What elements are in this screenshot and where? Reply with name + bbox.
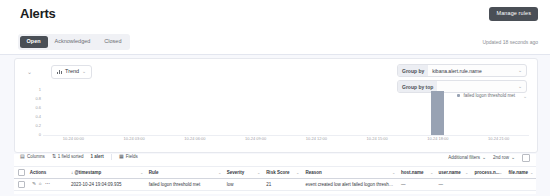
column-header-actions[interactable]: Actions <box>27 167 68 178</box>
column-header-process-name[interactable]: process.n...⌄ <box>471 167 505 178</box>
cell-reason: event created low alert failed logon thr… <box>302 182 398 187</box>
additional-filters-button[interactable]: Additional filters ⌄ <box>448 156 486 161</box>
sorted-fields-button[interactable]: ⇅ 1 field sorted <box>52 155 84 160</box>
columns-button[interactable]: ▤ Columns <box>20 155 45 160</box>
column-label: user.name <box>439 170 461 175</box>
legend-item-label: failed logon threshold met <box>463 93 515 98</box>
column-label: Severity <box>227 170 245 175</box>
more-actions-icon[interactable]: ⋯ <box>45 182 50 187</box>
tab-closed[interactable]: Closed <box>97 36 128 49</box>
row-height-label: 2nd row <box>493 156 509 161</box>
x-tick-label: 10-24 15:00 <box>366 137 387 141</box>
x-axis: 10-24 00:0010-24 03:0010-24 06:0010-24 0… <box>43 137 529 145</box>
column-label: Actions <box>30 170 47 175</box>
cell-user-name: — <box>436 182 472 187</box>
fullscreen-icon[interactable] <box>522 154 530 162</box>
sorted-fields-label: 1 field sorted <box>58 155 84 160</box>
status-tabs: Open Acknowledged Closed <box>18 34 130 50</box>
divider <box>111 154 112 160</box>
chart-legend: failed logon threshold met <box>457 93 515 98</box>
column-header-file-name[interactable]: file.name⌄ <box>505 167 536 178</box>
alerts-table-panel: ▤ Columns ⇅ 1 field sorted 1 alert ▦ Fie… <box>14 154 536 194</box>
column-header-host-name[interactable]: host.name⌄ <box>398 167 436 178</box>
table-row[interactable]: ✎ ⌂ ⋯ 2023-10-24 19:04:09.935 failed log… <box>14 179 536 191</box>
chart-toolbar: ⌄ Trend ⌄ Group by kibana.alert.rule.nam… <box>15 59 537 87</box>
column-header-rule[interactable]: Rule⌄ <box>146 167 224 178</box>
chevron-down-icon: ⌄ <box>257 170 260 175</box>
chevron-down-icon[interactable]: ⌄ <box>27 68 32 75</box>
chart-type-select[interactable]: Trend ⌄ <box>51 65 92 79</box>
x-tick-label: 10-24 00:00 <box>63 137 84 141</box>
column-label: Risk Score <box>266 170 289 175</box>
column-label: Reason <box>305 170 321 175</box>
y-tick-label: 0.6 <box>35 106 41 110</box>
row-select-checkbox[interactable] <box>14 181 27 188</box>
histogram-bar[interactable] <box>431 91 444 135</box>
x-tick-label: 10-24 03:00 <box>123 137 144 141</box>
x-tick-label: 10-24 18:00 <box>427 137 448 141</box>
fields-icon: ▦ <box>119 155 124 160</box>
legend-color-swatch <box>457 94 460 97</box>
column-header-user-name[interactable]: user.name⌄ <box>436 167 472 178</box>
page-title: Alerts <box>20 6 56 21</box>
cell-risk-score: 21 <box>263 182 302 187</box>
fields-button[interactable]: ▦ Fields <box>119 155 138 160</box>
column-label: ↓ @timestamp <box>71 170 101 175</box>
chevron-down-icon: ⌄ <box>392 170 395 175</box>
sort-icon: ⇅ <box>52 155 56 160</box>
tab-acknowledged[interactable]: Acknowledged <box>48 36 98 49</box>
column-header-risk-score[interactable]: Risk Score⌄ <box>263 167 302 178</box>
chart-type-label: Trend <box>65 69 79 75</box>
column-label: host.name <box>401 170 424 175</box>
chevron-down-icon: ⌄ <box>518 68 526 73</box>
manage-rules-button[interactable]: Manage rules <box>489 7 538 21</box>
cell-rule: failed logon threshold met <box>146 182 224 187</box>
alerts-chart-panel: ⌄ Trend ⌄ Group by kibana.alert.rule.nam… <box>14 58 538 153</box>
y-tick-label: 0.4 <box>35 115 41 119</box>
chevron-down-icon: ⌄ <box>82 70 86 75</box>
x-tick-label: 10-24 12:00 <box>306 137 327 141</box>
y-tick-label: 0.2 <box>35 124 41 128</box>
page-header: Alerts Manage rules <box>0 0 550 30</box>
x-tick-label: 10-24 09:00 <box>245 137 266 141</box>
group-by-value: kibana.alert.rule.name <box>428 68 518 74</box>
alert-count-label: 1 alert <box>91 155 104 160</box>
column-label: Rule <box>149 170 159 175</box>
fields-label: Fields <box>126 155 138 160</box>
group-by-label: Group by <box>398 65 428 76</box>
column-header-reason[interactable]: Reason⌄ <box>302 167 398 178</box>
chevron-down-icon: ⌄ <box>482 156 486 161</box>
group-by-field-select[interactable]: Group by kibana.alert.rule.name ⌄ <box>397 64 527 77</box>
row-height-button[interactable]: 2nd row ⌄ <box>493 156 515 161</box>
chevron-down-icon: ⌄ <box>465 170 468 175</box>
y-axis: 10.80.60.40.20 <box>23 90 41 135</box>
chevron-down-icon: ⌄ <box>499 170 502 175</box>
table-header-row: Actions ↓ @timestamp⌄ Rule⌄ Severity⌄ Ri… <box>14 166 536 179</box>
chevron-down-icon: ⌄ <box>140 170 143 175</box>
column-label: process.n... <box>474 170 499 175</box>
x-tick-label: 10-24 06:00 <box>184 137 205 141</box>
tab-open[interactable]: Open <box>20 36 48 49</box>
column-header-timestamp[interactable]: ↓ @timestamp⌄ <box>68 167 146 178</box>
chevron-down-icon: ⌄ <box>218 170 221 175</box>
last-updated-text: Updated 18 seconds ago <box>482 39 538 45</box>
additional-filters-label: Additional filters <box>448 156 480 161</box>
status-tabs-bar: Open Acknowledged Closed Updated 18 seco… <box>0 30 550 55</box>
cell-host-name: — <box>398 182 436 187</box>
columns-icon: ▤ <box>20 155 25 160</box>
chevron-down-icon: ⌄ <box>530 170 533 175</box>
analyzer-icon[interactable]: ⌂ <box>39 182 42 187</box>
alerts-histogram: 10.80.60.40.20 failed logon threshold me… <box>15 87 537 152</box>
y-tick-label: 1 <box>39 88 41 92</box>
legend-more-icon[interactable]: ⌄ <box>523 93 527 99</box>
chevron-down-icon: ⌄ <box>430 170 433 175</box>
chevron-down-icon: ⌄ <box>296 170 299 175</box>
expand-icon[interactable]: ✎ <box>32 182 36 187</box>
plot-area: failed logon threshold met ⌄ <box>43 91 529 136</box>
cell-timestamp: 2023-10-24 19:04:09.935 <box>68 182 146 187</box>
table-toolbar: ▤ Columns ⇅ 1 field sorted 1 alert ▦ Fie… <box>14 154 536 164</box>
cell-severity: low <box>224 182 263 187</box>
column-header-severity[interactable]: Severity⌄ <box>224 167 263 178</box>
select-all-checkbox[interactable] <box>14 169 27 176</box>
row-actions: ✎ ⌂ ⋯ <box>27 182 68 187</box>
